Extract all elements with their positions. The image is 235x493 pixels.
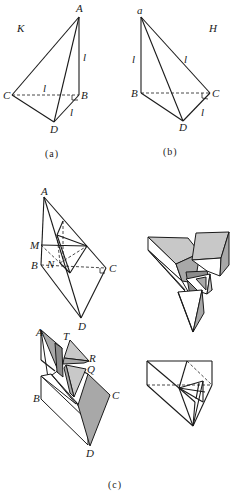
vertex-label-B: B (31, 259, 38, 271)
space-label-K: K (16, 22, 25, 34)
vertex-label-M: M (29, 239, 40, 251)
edge-label-BD: l (70, 106, 73, 118)
vertex-label-D: D (49, 123, 58, 135)
vertex-label-B: B (33, 392, 40, 404)
edge-label-CB: l (43, 82, 46, 94)
vertex-label-B: B (81, 89, 88, 101)
panel-c-dissected-tetrahedron: A M B N C D (29, 185, 117, 332)
caption-b: (b) (163, 146, 178, 158)
vertex-label-N: N (46, 258, 55, 270)
dissection-figure: A K l C l B l D (a) a H l l B C l D (b) (0, 0, 235, 493)
caption-c: (c) (108, 479, 122, 491)
edge-label-AB: l (83, 51, 86, 63)
vertex-label-D: D (77, 320, 86, 332)
vertex-label-T: T (63, 330, 70, 342)
space-label-H: H (208, 22, 218, 34)
caption-a: (a) (45, 148, 59, 160)
vertex-label-C: C (3, 89, 11, 101)
vertex-label-C: C (109, 262, 117, 274)
panel-c-exploded-pieces-top (148, 232, 229, 332)
vertex-label-D: D (178, 121, 187, 133)
panel-c-reassembled-prism (147, 361, 212, 426)
panel-a-tetrahedron: A K l C l B l D (3, 2, 88, 135)
vertex-label-D: D (85, 447, 94, 459)
panel-c-exploded-pieces-bottom: A T R Q B C D (33, 326, 120, 459)
vertex-label-Q: Q (87, 363, 95, 375)
vertex-label-A: A (35, 326, 43, 338)
edge-label-aC: l (184, 53, 187, 65)
vertex-label-A: A (40, 185, 48, 197)
edge-label-aB: l (132, 53, 135, 65)
vertex-label-B: B (131, 87, 138, 99)
vertex-label-A: A (75, 2, 83, 14)
vertex-label-C: C (112, 389, 120, 401)
vertex-label-a: a (137, 4, 143, 16)
edge-label-CD: l (201, 106, 204, 118)
panel-b-tetrahedron: a H l l B C l D (131, 4, 220, 133)
vertex-label-C: C (212, 87, 220, 99)
